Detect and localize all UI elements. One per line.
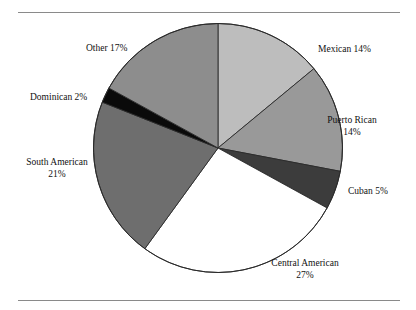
pie-label-south-american: South American 21%	[26, 157, 87, 180]
pie-label-other-text: Other 17%	[86, 43, 127, 53]
pie-label-mexican: Mexican 14%	[318, 44, 371, 56]
pie-label-puerto-rican-value: 14%	[327, 127, 376, 139]
pie-label-cuban: Cuban 5%	[348, 186, 388, 198]
pie-label-cuban-text: Cuban 5%	[348, 186, 388, 196]
figure-caption-partial	[20, 0, 400, 11]
pie-label-dominican: Dominican 2%	[30, 92, 87, 104]
pie-chart-svg	[93, 23, 343, 273]
pie-label-south-american-name: South American	[26, 157, 87, 169]
pie-label-puerto-rican-name: Puerto Rican	[327, 115, 376, 127]
pie-label-dominican-text: Dominican 2%	[30, 92, 87, 102]
pie-chart	[93, 23, 343, 273]
pie-label-puerto-rican: Puerto Rican 14%	[327, 115, 376, 138]
figure-bottom-rule	[18, 300, 400, 301]
figure-container: Mexican 14% Puerto Rican 14% Cuban 5% Ce…	[0, 0, 416, 310]
pie-label-other: Other 17%	[86, 43, 127, 55]
pie-label-mexican-text: Mexican 14%	[318, 44, 371, 54]
figure-top-rule	[18, 12, 400, 13]
pie-slice-group	[93, 24, 342, 273]
pie-label-south-american-value: 21%	[26, 169, 87, 181]
pie-label-central-american: Central American 27%	[271, 258, 338, 281]
pie-label-central-american-value: 27%	[271, 270, 338, 282]
pie-label-central-american-name: Central American	[271, 258, 338, 270]
